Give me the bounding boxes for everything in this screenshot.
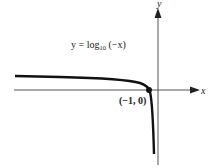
point-marker <box>146 87 152 93</box>
x-axis-label: x <box>200 85 206 96</box>
x-axis <box>14 87 200 94</box>
y-axis <box>155 8 162 165</box>
equation-label: y = log10 (−x) <box>71 39 126 51</box>
log-curve <box>15 76 154 154</box>
point-label: (−1, 0) <box>119 95 146 107</box>
plot: y = log10 (−x) x y (−1, 0) <box>0 0 214 168</box>
graph: y = log10 (−x) x y (−1, 0) <box>0 0 214 168</box>
y-axis-label: y <box>156 0 162 9</box>
